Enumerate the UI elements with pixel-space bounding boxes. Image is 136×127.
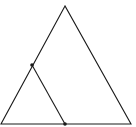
left-side-point xyxy=(30,63,34,67)
triangle-diagram xyxy=(0,0,136,127)
inner-segment xyxy=(32,65,65,124)
base-point xyxy=(63,122,67,126)
outer-triangle xyxy=(1,6,131,124)
